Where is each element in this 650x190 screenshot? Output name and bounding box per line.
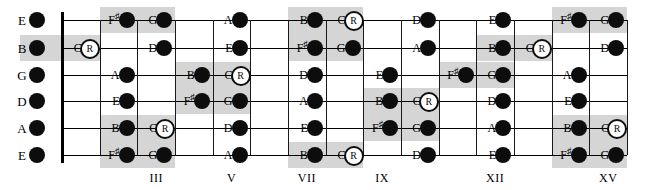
note-dot-icon xyxy=(495,93,511,109)
note-name-label: A xyxy=(299,95,308,107)
note-dot-icon xyxy=(194,93,210,109)
note-name-label: F♯ xyxy=(184,95,195,107)
note-name-label: B xyxy=(564,122,572,134)
note-name-label: F♯ xyxy=(108,14,119,26)
note-dot-icon xyxy=(495,147,511,163)
note-dot-icon xyxy=(29,40,45,56)
note-dot-icon xyxy=(345,40,361,56)
note-dot-icon xyxy=(119,67,135,83)
note-dot-icon xyxy=(29,67,45,83)
root-dot-icon xyxy=(231,66,251,86)
note-name-label: A xyxy=(224,14,233,26)
note-dot-icon xyxy=(307,147,323,163)
note-name-label: C xyxy=(224,69,232,81)
note-name-label: C xyxy=(413,95,421,107)
note-name-label: B xyxy=(187,69,195,81)
note-dot-icon xyxy=(420,40,436,56)
note-name-label: D xyxy=(299,69,308,81)
root-dot-icon xyxy=(532,39,552,59)
fret-number-label: XV xyxy=(599,172,617,184)
open-string-name: B xyxy=(18,42,27,55)
note-dot-icon xyxy=(119,93,135,109)
note-name-label: F♯ xyxy=(560,149,571,161)
note-dot-icon xyxy=(571,120,587,136)
note-name-label: A xyxy=(563,69,572,81)
note-name-label: G xyxy=(224,95,233,107)
fret-line xyxy=(326,20,327,155)
note-name-label: E xyxy=(376,69,383,81)
note-name-label: C xyxy=(338,149,346,161)
note-name-label: C xyxy=(526,42,534,54)
open-string-name: E xyxy=(18,149,26,162)
note-name-label: G xyxy=(337,42,346,54)
fret-line xyxy=(439,20,440,155)
note-name-label: C xyxy=(338,14,346,26)
fret-line xyxy=(100,20,101,155)
string-line xyxy=(62,128,627,129)
note-dot-icon xyxy=(458,67,474,83)
note-name-label: G xyxy=(488,69,497,81)
note-dot-icon xyxy=(232,12,248,28)
note-name-label: E xyxy=(112,95,119,107)
open-string-name: G xyxy=(17,69,26,82)
string-line xyxy=(62,101,627,102)
note-dot-icon xyxy=(495,12,511,28)
note-dot-icon xyxy=(29,93,45,109)
sharp-icon: ♯ xyxy=(303,39,308,49)
fret-line xyxy=(589,20,590,155)
note-name-label: E xyxy=(301,122,308,134)
note-dot-icon xyxy=(571,93,587,109)
open-string-name: E xyxy=(18,14,26,27)
sharp-icon: ♯ xyxy=(567,11,572,21)
note-dot-icon xyxy=(495,120,511,136)
fret-line xyxy=(288,20,289,155)
fret-line xyxy=(514,20,515,155)
note-name-label: C xyxy=(149,122,157,134)
fret-line xyxy=(213,20,214,155)
note-dot-icon xyxy=(420,12,436,28)
note-dot-icon xyxy=(232,147,248,163)
fret-number-label: III xyxy=(149,172,163,184)
note-name-label: C xyxy=(74,42,82,54)
note-name-label: B xyxy=(375,95,383,107)
note-dot-icon xyxy=(156,40,172,56)
note-name-label: G xyxy=(149,149,158,161)
note-name-label: A xyxy=(224,149,233,161)
sharp-icon: ♯ xyxy=(115,146,120,156)
sharp-icon: ♯ xyxy=(567,146,572,156)
note-name-label: F♯ xyxy=(447,69,458,81)
note-dot-icon xyxy=(608,40,624,56)
note-dot-icon xyxy=(571,67,587,83)
note-name-label: F♯ xyxy=(108,149,119,161)
note-name-label: G xyxy=(412,122,421,134)
note-name-label: B xyxy=(111,122,119,134)
note-dot-icon xyxy=(307,40,323,56)
note-name-label: C xyxy=(601,122,609,134)
fret-line xyxy=(627,20,628,155)
fret-line xyxy=(476,20,477,155)
note-dot-icon xyxy=(382,67,398,83)
note-dot-icon xyxy=(307,67,323,83)
open-string-name: A xyxy=(17,122,26,135)
note-name-label: A xyxy=(412,42,421,54)
string-line xyxy=(62,75,627,76)
fret-number-label: VII xyxy=(298,172,316,184)
note-dot-icon xyxy=(119,147,135,163)
note-name-label: E xyxy=(489,14,496,26)
note-name-label: E xyxy=(225,42,232,54)
note-dot-icon xyxy=(29,120,45,136)
note-dot-icon xyxy=(420,120,436,136)
note-dot-icon xyxy=(232,40,248,56)
note-name-label: G xyxy=(149,14,158,26)
fret-line xyxy=(250,20,251,155)
note-name-label: E xyxy=(564,95,571,107)
note-name-label: F♯ xyxy=(297,42,308,54)
fret-line xyxy=(137,20,138,155)
note-name-label: D xyxy=(601,42,610,54)
root-dot-icon xyxy=(80,39,100,59)
sharp-icon: ♯ xyxy=(454,66,459,76)
note-dot-icon xyxy=(194,67,210,83)
sharp-icon: ♯ xyxy=(379,119,384,129)
root-dot-icon xyxy=(344,146,364,166)
fret-number-label: XII xyxy=(486,172,504,184)
